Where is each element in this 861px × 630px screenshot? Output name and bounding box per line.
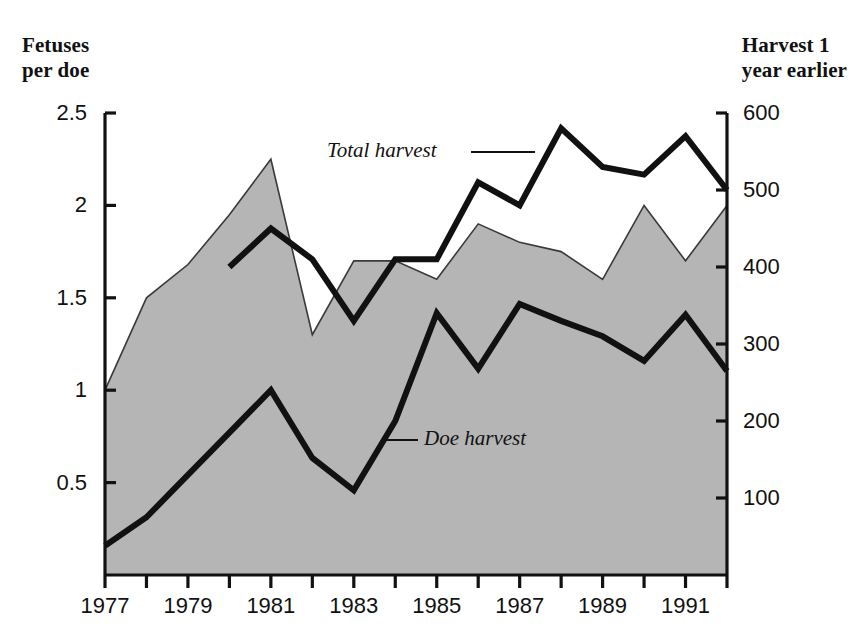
total-harvest-label: Total harvest (327, 138, 437, 163)
right-tick-label-500: 500 (743, 177, 780, 203)
x-tick-label-1991: 1991 (661, 593, 710, 619)
x-tick-label-1977: 1977 (81, 593, 130, 619)
right-tick-label-100: 100 (743, 485, 780, 511)
x-tick-label-1985: 1985 (412, 593, 461, 619)
x-tick-label-1989: 1989 (578, 593, 627, 619)
x-axis-ticks (105, 575, 727, 588)
x-tick-label-1983: 1983 (329, 593, 378, 619)
x-tick-label-1979: 1979 (163, 593, 212, 619)
left-tick-label-0.5: 0.5 (56, 470, 87, 496)
left-tick-label-2.5: 2.5 (56, 100, 87, 126)
doe-harvest-label: Doe harvest (424, 426, 526, 451)
chart-root: Fetuses per doe Harvest 1 year earlier 0… (0, 0, 861, 630)
right-tick-label-200: 200 (743, 408, 780, 434)
left-tick-label-2: 2 (75, 192, 87, 218)
right-tick-label-400: 400 (743, 254, 780, 280)
right-tick-label-600: 600 (743, 100, 780, 126)
left-tick-label-1.5: 1.5 (56, 285, 87, 311)
plot-canvas (0, 0, 861, 630)
x-tick-label-1987: 1987 (495, 593, 544, 619)
right-tick-label-300: 300 (743, 331, 780, 357)
left-tick-label-1: 1 (75, 377, 87, 403)
x-tick-label-1981: 1981 (246, 593, 295, 619)
